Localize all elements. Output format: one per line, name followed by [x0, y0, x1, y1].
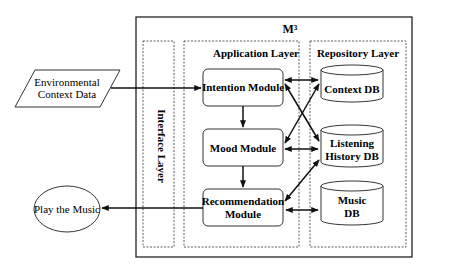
environmental-context-data-label-1: Environmental: [34, 76, 99, 88]
listening-history-db-label-1: Listening: [330, 137, 375, 149]
recommendation-module-label-1: Recommendation: [202, 195, 285, 207]
music-db-label-1: Music: [338, 194, 367, 206]
environmental-context-data-label-2: Context Data: [38, 88, 96, 100]
mood-module-label: Mood Module: [210, 142, 276, 154]
intention-module-label: Intention Module: [202, 81, 284, 93]
play-the-music-label: Play the Music: [34, 203, 100, 215]
architecture-diagram: M³ Interface Layer Application Layer Rep…: [0, 0, 460, 275]
music-db-label-2: DB: [344, 207, 360, 219]
application-layer-label: Application Layer: [213, 47, 299, 59]
interface-layer-label: Interface Layer: [156, 109, 168, 183]
listening-history-db: Listening History DB: [321, 125, 383, 167]
arrow-recommendation-listening-db: [285, 160, 319, 201]
context-db-label: Context DB: [324, 83, 380, 95]
system-title: M³: [283, 22, 298, 36]
music-db: Music DB: [321, 181, 383, 225]
listening-history-db-label-2: History DB: [325, 150, 379, 162]
recommendation-module-label-2: Module: [225, 208, 261, 220]
repository-layer-label: Repository Layer: [317, 47, 399, 59]
context-db: Context DB: [321, 65, 383, 102]
